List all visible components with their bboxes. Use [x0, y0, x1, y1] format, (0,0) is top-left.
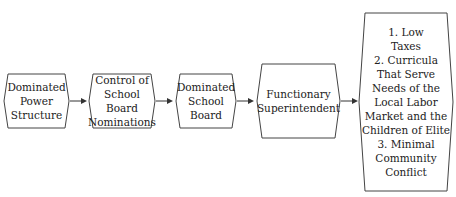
- arrow-2: [156, 97, 174, 105]
- node-label: Control of School Board Nominations: [88, 73, 156, 129]
- arrow-3: [237, 97, 255, 105]
- arrow-1: [70, 97, 88, 105]
- node-dominated-school-board: Dominated School Board: [175, 73, 237, 129]
- node-label: Functionary Superintendent: [257, 87, 340, 115]
- arrow-4: [341, 97, 359, 105]
- node-label: 1. Low Taxes 2. Curricula That Serve Nee…: [362, 25, 450, 179]
- node-dominated-power-structure: Dominated Power Structure: [3, 73, 70, 129]
- node-control-of-school-board-nominations: Control of School Board Nominations: [88, 73, 156, 129]
- node-label: Dominated School Board: [177, 80, 235, 122]
- node-label: Dominated Power Structure: [7, 80, 65, 122]
- node-functionary-superintendent: Functionary Superintendent: [256, 63, 341, 139]
- node-outcomes: 1. Low Taxes 2. Curricula That Serve Nee…: [358, 12, 454, 192]
